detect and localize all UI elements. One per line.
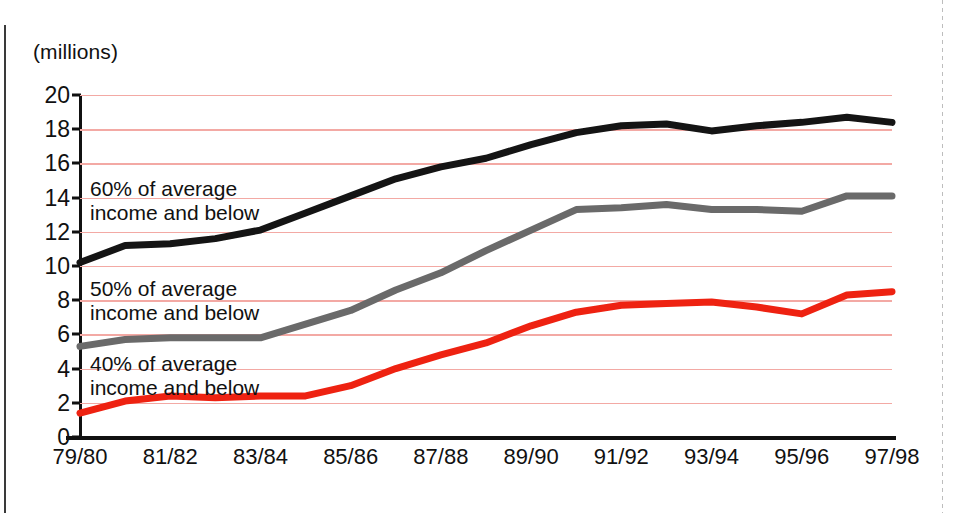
annotation-series-40-line1: 40% of average <box>90 352 259 376</box>
x-axis-tick-label: 85/86 <box>323 444 378 470</box>
y-axis-tick-label: 16 <box>10 152 70 175</box>
annotation-series-50-line1: 50% of average <box>90 277 259 301</box>
y-axis-tick-label: 20 <box>10 84 70 107</box>
page-edge-right-rule <box>942 0 943 513</box>
y-axis-tick-label: 18 <box>10 118 70 141</box>
x-axis-tick-label: 83/84 <box>233 444 288 470</box>
y-axis-tick-label: 12 <box>10 220 70 243</box>
annotation-series-50: 50% of average income and below <box>90 277 259 324</box>
x-axis-tick-label: 89/90 <box>504 444 559 470</box>
annotation-series-50-line2: income and below <box>90 301 259 325</box>
x-axis-tick-label: 79/80 <box>52 444 107 470</box>
x-axis-tick-label: 93/94 <box>684 444 739 470</box>
annotation-series-60-line1: 60% of average <box>90 177 259 201</box>
y-axis-units-label: (millions) <box>33 40 118 64</box>
y-axis-tick-label: 10 <box>10 255 70 278</box>
annotation-series-40: 40% of average income and below <box>90 352 259 399</box>
x-axis-tick-label: 95/96 <box>774 444 829 470</box>
y-axis-tick-labels: 02468101214161820 <box>0 95 70 437</box>
x-axis-tick-label: 91/92 <box>594 444 649 470</box>
x-axis-tick-label: 81/82 <box>143 444 198 470</box>
annotation-series-40-line2: income and below <box>90 376 259 400</box>
y-axis-tick-label: 2 <box>10 391 70 414</box>
y-axis-tick-label: 6 <box>10 323 70 346</box>
x-axis-tick-labels: 79/8081/8283/8485/8687/8889/9091/9293/94… <box>80 444 892 484</box>
y-axis-tick-label: 8 <box>10 289 70 312</box>
y-axis-tick-label: 4 <box>10 357 70 380</box>
x-axis-tick-label: 87/88 <box>413 444 468 470</box>
annotation-series-60-line2: income and below <box>90 201 259 225</box>
y-axis-tick-label: 14 <box>10 186 70 209</box>
chart-figure: (millions) 02468101214161820 79/8081/828… <box>0 0 955 513</box>
annotation-series-60: 60% of average income and below <box>90 177 259 224</box>
x-axis-tick-label: 97/98 <box>864 444 919 470</box>
